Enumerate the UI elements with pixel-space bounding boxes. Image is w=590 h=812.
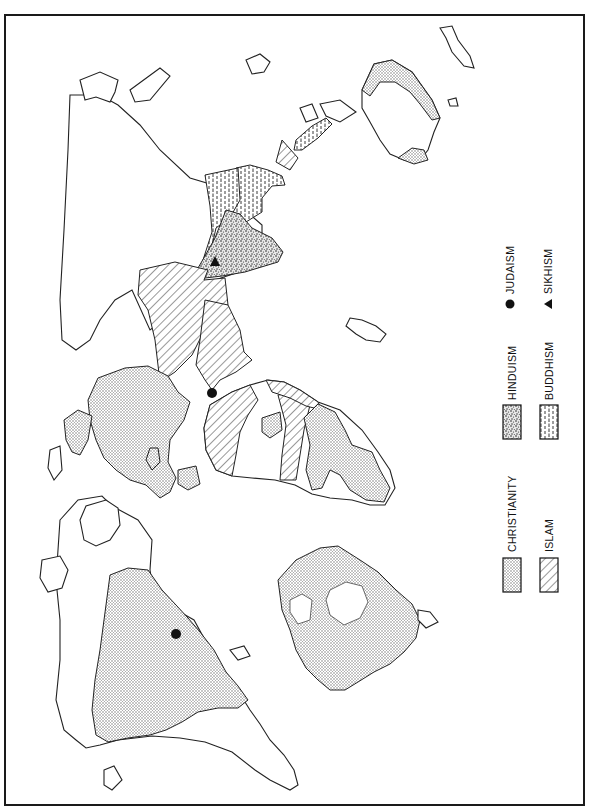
land-siberia-coast xyxy=(80,72,118,102)
region-islam-middle-east xyxy=(196,300,252,390)
judaism-marker-israel xyxy=(207,388,217,398)
land-japan xyxy=(246,54,270,74)
legend-swatch-hinduism xyxy=(503,405,521,439)
legend: CHRISTIANITY ISLAM HINDUISM BUDDHISM JUD… xyxy=(503,246,558,592)
legend-swatch-buddhism xyxy=(540,405,558,439)
legend-label-islam: ISLAM xyxy=(543,519,555,552)
region-christianity-russia-europe xyxy=(88,366,190,498)
land-caribbean xyxy=(230,646,250,660)
judaism-marker-new-york xyxy=(171,629,181,639)
land-new-zealand xyxy=(440,26,474,68)
legend-label-judaism: JUDAISM xyxy=(504,246,516,294)
legend-swatch-christianity xyxy=(503,558,521,592)
land-novaya-zemlya xyxy=(48,446,62,480)
land-kamchatka xyxy=(130,68,170,102)
land-patagonia-tip xyxy=(418,610,438,628)
land-scandinavia xyxy=(64,410,92,455)
land-philippines xyxy=(300,104,318,122)
legend-label-buddhism: BUDDHISM xyxy=(543,342,555,400)
land-iberia xyxy=(178,466,200,490)
world-religions-map: CHRISTIANITY ISLAM HINDUISM BUDDHISM JUD… xyxy=(0,0,590,812)
legend-label-hinduism: HINDUISM xyxy=(506,346,518,400)
land-alaska-tip xyxy=(104,766,122,790)
land-tasmania xyxy=(448,98,458,106)
land-madagascar xyxy=(346,318,386,342)
legend-label-christianity: CHRISTIANITY xyxy=(506,475,518,552)
region-buddhism-japan-se xyxy=(294,118,332,150)
legend-swatch-islam xyxy=(540,558,558,592)
legend-symbol-sikhism xyxy=(544,299,552,309)
legend-symbol-judaism xyxy=(506,300,515,309)
legend-label-sikhism: SIKHISM xyxy=(542,249,554,294)
